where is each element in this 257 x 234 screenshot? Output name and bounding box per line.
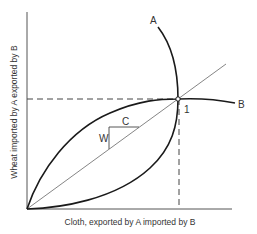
equilibrium-point bbox=[176, 97, 180, 101]
curve-b-label: B bbox=[238, 99, 245, 110]
triangle-c-label: C bbox=[122, 116, 129, 127]
offer-curve-b bbox=[27, 99, 235, 209]
x-axis-label: Cloth, exported by A imported by B bbox=[65, 217, 196, 227]
curve-a-label: A bbox=[150, 15, 157, 26]
equilibrium-label: 1 bbox=[184, 104, 190, 115]
offer-curve-diagram: A B 1 C W Cloth, exported by A imported … bbox=[0, 0, 257, 234]
y-axis-label: Wheat imported by A exported by B bbox=[9, 45, 19, 179]
terms-of-trade-line bbox=[27, 64, 226, 209]
offer-curve-a bbox=[27, 27, 178, 209]
triangle-w-label: W bbox=[99, 133, 109, 144]
